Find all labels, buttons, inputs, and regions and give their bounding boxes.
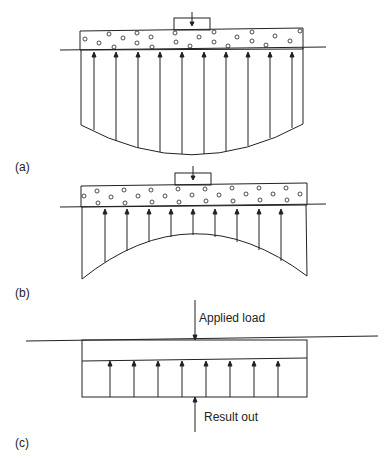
arrows-a: [92, 52, 294, 154]
panel-label-c: (c): [15, 436, 29, 450]
pressure-curve-b: [82, 234, 307, 279]
arrows-b: [103, 209, 283, 262]
aggregate-b: [82, 186, 302, 205]
applied-load-label: Applied load: [199, 311, 265, 325]
pressure-distribution-diagram: [0, 0, 386, 460]
panel-b: [60, 166, 326, 279]
foundation-c: [82, 340, 307, 397]
panel-label-a: (a): [15, 160, 30, 174]
panel-label-b: (b): [15, 286, 30, 300]
panel-a: [60, 12, 326, 155]
arrows-c: [108, 361, 280, 397]
result-out-label: Result out: [204, 410, 258, 424]
aggregate-a: [83, 29, 302, 49]
